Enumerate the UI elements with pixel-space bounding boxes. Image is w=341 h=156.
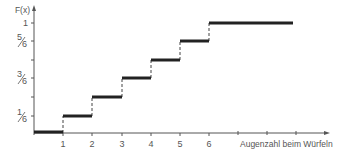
svg-text:6: 6 xyxy=(22,39,27,49)
y-tick-label-1: 1 xyxy=(23,18,28,28)
y-tick-label-3-6: 3 6 xyxy=(17,69,27,86)
svg-text:6: 6 xyxy=(22,76,27,86)
cdf-step-chart: F(x) 1 5 6 3 6 1 6 1 2 3 4 5 6 Augenzahl… xyxy=(0,0,341,156)
x-tick-label-2: 2 xyxy=(89,139,94,149)
y-axis-arrow-icon xyxy=(32,5,36,11)
x-tick-label-4: 4 xyxy=(148,139,153,149)
x-axis-title: Augenzahl beim Würfeln xyxy=(240,139,333,149)
y-tick-label-5-6: 5 6 xyxy=(17,32,27,49)
step-segments xyxy=(34,23,293,132)
svg-text:6: 6 xyxy=(22,114,27,124)
x-tick-label-6: 6 xyxy=(206,139,211,149)
y-axis-title: F(x) xyxy=(15,5,30,15)
x-tick-label-3: 3 xyxy=(119,139,124,149)
x-axis-arrow-icon xyxy=(324,131,330,135)
x-tick-label-1: 1 xyxy=(60,139,65,149)
x-tick-label-5: 5 xyxy=(177,139,182,149)
y-tick-label-1-6: 1 6 xyxy=(17,107,27,124)
